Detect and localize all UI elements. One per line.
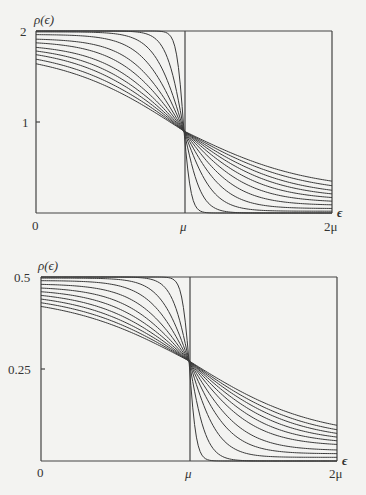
density-curve [36,64,332,181]
x-tick-label-mu: μ [179,219,187,234]
x-tick-label-0: 0 [32,218,39,233]
density-curve [36,31,332,213]
density-curve [36,31,332,213]
density-curve [36,47,332,197]
curves [41,277,337,461]
chart-bottom: ρ(ϵ) 0.5 0.25 0 μ 2μ ϵ [8,258,348,481]
x-axis-label: ϵ [337,205,343,220]
density-curve [41,278,337,457]
figure: ρ(ϵ) 2 1 0 μ 2μ ϵ ρ(ϵ) 0.5 0.25 0 μ 2μ ϵ [0,0,366,495]
chart-top: ρ(ϵ) 2 1 0 μ 2μ ϵ [20,12,343,234]
density-curve [36,39,332,205]
y-tick-label-0.25: 0.25 [8,362,31,377]
x-tick-label-0: 0 [37,465,44,480]
density-curve [36,59,332,185]
curves [36,31,332,213]
density-curve [36,32,332,211]
y-tick-label-1: 1 [22,115,29,130]
y-tick-label-0.5: 0.5 [14,270,30,285]
y-axis-label: ρ(ϵ) [37,258,58,273]
x-tick-label-2mu: 2μ [329,466,343,481]
plot-frame [36,31,332,213]
x-tick-label-mu: μ [184,466,192,481]
x-axis-label: ϵ [342,453,348,468]
x-tick-label-2mu: 2μ [324,219,338,234]
y-axis-label: ρ(ϵ) [33,12,54,27]
y-tick-label-2: 2 [20,24,27,39]
density-curve [36,55,332,191]
